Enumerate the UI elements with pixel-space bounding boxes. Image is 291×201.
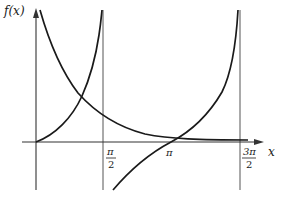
tick-3pi-over-2-numerator: 3π bbox=[243, 146, 256, 157]
y-axis-label: f(x) bbox=[3, 4, 25, 18]
decreasing-curve bbox=[40, 10, 248, 140]
x-axis-arrow-icon bbox=[254, 139, 264, 145]
tick-pi-over-2-numerator: π bbox=[106, 146, 114, 157]
function-graph: f(x) x π 2 π 3π 2 bbox=[0, 0, 291, 201]
tick-pi-over-2-denominator: 2 bbox=[108, 159, 114, 170]
tan-branch-2 bbox=[113, 10, 238, 190]
y-axis-arrow-icon bbox=[33, 8, 39, 18]
tick-3pi-over-2-denominator: 2 bbox=[246, 159, 252, 170]
x-axis-label: x bbox=[268, 145, 275, 159]
tick-pi: π bbox=[165, 147, 173, 158]
